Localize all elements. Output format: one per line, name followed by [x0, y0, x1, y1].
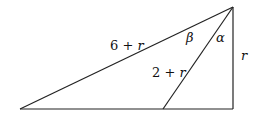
- triangle-diagram: 6 + r 2 + r r β α: [0, 0, 265, 122]
- vertical-label: r: [241, 48, 248, 63]
- inner-edge: [163, 7, 233, 109]
- angle-alpha-label: α: [216, 30, 225, 45]
- angle-beta-label: β: [185, 30, 194, 45]
- inner-label: 2 + r: [152, 65, 186, 80]
- hypotenuse-label: 6 + r: [110, 38, 144, 53]
- hypotenuse-edge: [20, 7, 233, 109]
